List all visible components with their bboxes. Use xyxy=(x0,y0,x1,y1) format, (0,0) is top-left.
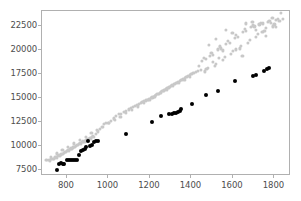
data-point xyxy=(159,114,163,118)
data-point xyxy=(90,143,94,147)
data-point xyxy=(241,54,244,57)
x-tick-mark xyxy=(107,175,108,178)
x-tick-label: 1400 xyxy=(180,180,201,190)
data-point xyxy=(113,118,116,121)
data-point xyxy=(199,68,202,71)
data-point xyxy=(228,41,231,44)
data-point xyxy=(265,27,268,30)
data-point xyxy=(279,11,282,14)
data-point xyxy=(119,115,122,118)
x-tick-mark xyxy=(190,175,191,178)
data-point xyxy=(107,122,110,125)
y-tick-mark xyxy=(38,121,41,122)
data-point xyxy=(254,29,257,32)
data-point xyxy=(189,76,192,79)
data-point xyxy=(62,162,66,166)
data-point xyxy=(142,101,145,104)
data-point xyxy=(204,70,207,73)
data-point xyxy=(75,158,79,162)
y-tick-label: 15000 xyxy=(10,92,37,102)
data-point xyxy=(179,107,183,111)
plot-area xyxy=(42,11,289,174)
data-point xyxy=(96,139,100,143)
data-point xyxy=(256,32,259,35)
data-point xyxy=(253,25,256,28)
x-tick-mark xyxy=(66,175,67,178)
data-point xyxy=(214,37,217,40)
data-point xyxy=(221,49,224,52)
data-point xyxy=(223,55,226,58)
scatter-plot-figure: 80010001200140016001800 7500100001250015… xyxy=(0,0,301,201)
y-tick-label: 7500 xyxy=(16,164,37,174)
data-point xyxy=(165,88,168,91)
data-point xyxy=(271,16,274,19)
x-tick-label: 1600 xyxy=(221,180,242,190)
y-tick-label: 22500 xyxy=(10,20,37,30)
data-point xyxy=(150,120,154,124)
data-point xyxy=(234,48,237,51)
data-point xyxy=(160,91,163,94)
x-tick-mark xyxy=(149,175,150,178)
y-tick-mark xyxy=(38,97,41,98)
data-point xyxy=(224,29,227,32)
data-point xyxy=(93,135,96,138)
data-point xyxy=(238,47,241,50)
data-point xyxy=(267,66,271,70)
data-point xyxy=(190,102,194,106)
data-point xyxy=(55,168,59,172)
data-point xyxy=(248,38,251,41)
data-point xyxy=(171,85,174,88)
y-tick-mark xyxy=(38,169,41,170)
data-point xyxy=(218,56,221,59)
data-point xyxy=(281,17,284,20)
data-point xyxy=(216,89,220,93)
x-tick-label: 1200 xyxy=(138,180,159,190)
data-point xyxy=(255,35,258,38)
data-point xyxy=(86,139,90,143)
x-tick-label: 800 xyxy=(58,180,74,190)
data-point xyxy=(261,31,264,34)
data-point xyxy=(124,132,128,136)
data-point xyxy=(221,58,224,61)
y-tick-label: 10000 xyxy=(10,140,37,150)
data-point xyxy=(198,64,201,67)
data-point xyxy=(206,66,209,69)
data-point xyxy=(254,73,258,77)
data-point xyxy=(183,78,186,81)
data-point xyxy=(261,22,264,25)
data-point xyxy=(136,105,139,108)
data-point xyxy=(245,30,248,33)
y-tick-label: 12500 xyxy=(10,116,37,126)
data-point xyxy=(211,60,214,63)
x-tick-label: 1000 xyxy=(97,180,118,190)
plot-axes xyxy=(41,10,290,175)
data-point xyxy=(204,93,208,97)
data-point xyxy=(240,44,243,47)
data-point xyxy=(130,108,133,111)
data-point xyxy=(125,112,128,115)
data-point xyxy=(208,43,211,46)
data-point xyxy=(251,20,254,23)
data-point xyxy=(230,53,233,56)
data-point xyxy=(274,26,277,29)
data-point xyxy=(236,35,239,38)
x-tick-label: 1800 xyxy=(263,180,284,190)
data-point xyxy=(101,125,104,128)
data-point xyxy=(148,98,151,101)
data-point xyxy=(177,81,180,84)
data-point xyxy=(246,41,249,44)
y-tick-label: 20000 xyxy=(10,44,37,54)
data-point xyxy=(204,57,207,60)
data-point xyxy=(233,79,237,83)
y-tick-mark xyxy=(38,145,41,146)
data-point xyxy=(264,34,267,37)
y-tick-mark xyxy=(38,73,41,74)
data-point xyxy=(211,54,214,57)
data-point xyxy=(215,62,218,65)
data-point xyxy=(244,22,247,25)
y-tick-label: 17500 xyxy=(10,68,37,78)
data-point xyxy=(231,31,234,34)
x-tick-mark xyxy=(232,175,233,178)
y-tick-mark xyxy=(38,25,41,26)
data-point xyxy=(154,95,157,98)
